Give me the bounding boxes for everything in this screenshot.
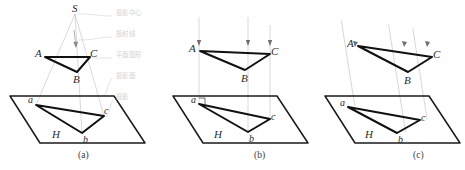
panel-c: A C B a c b H — [325, 21, 460, 145]
panel-b-right-angle-mark — [199, 98, 205, 104]
panel-b-space-triangle — [200, 51, 270, 70]
panel-a-label-B: B — [73, 73, 80, 85]
figure-canvas: S A C B a c b H 投影中心 投射线 平面图形 投影面 投影 — [0, 0, 465, 170]
annotation-projection-ray: 投射线 — [116, 29, 136, 38]
annotation-plane-figure: 平面图形 — [116, 51, 142, 59]
panel-a-label-H: H — [51, 128, 61, 140]
panel-c-projection-plane — [325, 96, 460, 143]
panel-b-projected-triangle — [199, 104, 270, 132]
panel-b-label-A: A — [188, 42, 196, 54]
panel-a-label-S: S — [72, 2, 78, 14]
panel-c-label-B: B — [404, 74, 411, 86]
panel-b-label-C: C — [271, 45, 279, 57]
panel-c-label-c: c — [421, 112, 426, 123]
panel-b-ray-arrowheads — [197, 40, 272, 46]
panel-c-projected-triangle — [348, 107, 420, 133]
panel-b-label-a: a — [191, 94, 196, 105]
panel-c-label-b: b — [398, 134, 403, 145]
panel-c-label-a: a — [340, 97, 345, 108]
panel-c-projection-rays — [341, 21, 427, 133]
panel-a-label-c: c — [104, 105, 109, 116]
panel-b-label-B: B — [241, 72, 248, 84]
panel-b-label-H: H — [213, 128, 223, 140]
panel-c-label-A: A — [346, 37, 354, 49]
panel-a-projected-triangle — [36, 105, 104, 133]
annotation-projection-center: 投影中心 — [116, 8, 142, 17]
panel-c-space-triangle — [358, 46, 432, 72]
panel-b-label-c: c — [271, 111, 276, 122]
annotation-projection-plane: 投影面 — [116, 71, 136, 80]
panel-a-label-a: a — [28, 94, 33, 105]
caption-c: (c) — [413, 150, 424, 160]
panel-c-label-H: H — [364, 128, 374, 140]
panel-a-label-C: C — [90, 47, 98, 59]
annotation-projection: 投影 — [116, 92, 129, 101]
projection-diagram: S A C B a c b H 投影中心 投射线 平面图形 投影面 投影 — [0, 0, 465, 170]
panel-a-ray-arrow — [73, 30, 78, 48]
caption-a: (a) — [78, 150, 89, 160]
panel-a-space-triangle — [45, 57, 90, 72]
panel-b-label-b: b — [249, 133, 254, 144]
panel-a-label-A: A — [34, 47, 42, 59]
panel-b: A C B a c b H — [173, 17, 308, 144]
caption-b: (b) — [254, 150, 265, 160]
panel-b-projection-rays — [199, 17, 270, 132]
panel-a-label-b: b — [83, 134, 88, 145]
panel-c-label-C: C — [433, 48, 441, 60]
